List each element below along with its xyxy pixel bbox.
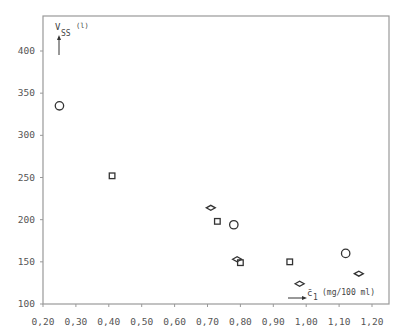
x-axis-ticks: 0,200,300,400,500,600,700,800,901,001,10… <box>32 304 384 327</box>
x-tick-label: 1,20 <box>361 316 384 327</box>
x-tick-label: 1,00 <box>295 316 318 327</box>
x-tick-label: 0,20 <box>32 316 55 327</box>
square-marker <box>215 219 221 225</box>
scatter-chart: 100150200250300350400 0,200,300,400,500,… <box>0 0 409 336</box>
svg-text:SS: SS <box>61 29 71 38</box>
svg-text:(l): (l) <box>76 22 89 30</box>
data-points <box>55 102 363 287</box>
x-tick-label: 0,80 <box>229 316 252 327</box>
y-tick-label: 350 <box>18 87 35 98</box>
x-tick-label: 0,50 <box>130 316 153 327</box>
svg-text:(mg/100 ml): (mg/100 ml) <box>322 288 375 297</box>
x-tick-label: 0,70 <box>196 316 219 327</box>
square-marker <box>109 173 115 179</box>
y-tick-label: 150 <box>18 256 35 267</box>
x-tick-label: 0,40 <box>97 316 120 327</box>
y-axis-label: V SS (l) <box>55 22 89 55</box>
x-axis-label: c̄ 1 (mg/100 ml) <box>288 288 375 302</box>
x-tick-label: 0,90 <box>262 316 285 327</box>
y-tick-label: 200 <box>18 214 35 225</box>
circle-marker <box>230 221 238 229</box>
x-tick-label: 1,10 <box>328 316 351 327</box>
diamond-marker <box>354 271 363 276</box>
y-tick-label: 300 <box>18 129 35 140</box>
square-marker <box>287 259 293 265</box>
y-tick-label: 250 <box>18 172 35 183</box>
diamond-marker <box>206 205 215 210</box>
y-axis-ticks: 100150200250300350400 <box>18 45 43 309</box>
diamond-marker <box>295 281 304 286</box>
svg-text:c̄: c̄ <box>307 288 312 298</box>
plot-frame <box>43 16 389 304</box>
x-tick-label: 0,60 <box>163 316 186 327</box>
circle-marker <box>55 102 63 110</box>
circle-marker <box>341 249 349 257</box>
y-tick-label: 100 <box>18 298 35 309</box>
svg-text:1: 1 <box>313 293 318 302</box>
x-tick-label: 0,30 <box>64 316 87 327</box>
y-tick-label: 400 <box>18 45 35 56</box>
